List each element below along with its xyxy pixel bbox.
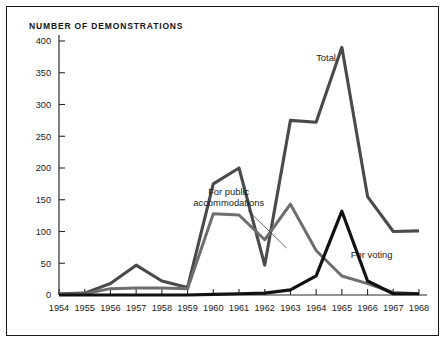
y-tick-label: 250 xyxy=(36,132,51,142)
x-tick-label: 1965 xyxy=(332,303,352,313)
y-tick-label: 300 xyxy=(36,100,51,110)
x-tick-label: 1967 xyxy=(383,303,403,313)
chart-figure: NUMBER OF DEMONSTRATIONS 050100150200250… xyxy=(6,6,439,336)
x-tick-label: 1962 xyxy=(254,303,274,313)
x-tick-label: 1957 xyxy=(126,303,146,313)
x-tick-label: 1966 xyxy=(357,303,377,313)
x-tick-label: 1968 xyxy=(409,303,429,313)
y-tick-label: 200 xyxy=(36,163,51,173)
x-tick-label: 1956 xyxy=(100,303,120,313)
line-chart-plot: 0501001502002503003504001954195519561957… xyxy=(7,7,440,337)
y-tick-label: 350 xyxy=(36,68,51,78)
y-tick-label: 0 xyxy=(46,290,51,300)
series-annotation-label: For publicaccommodations xyxy=(193,186,264,209)
x-tick-label: 1961 xyxy=(229,303,249,313)
y-tick-label: 100 xyxy=(36,227,51,237)
series-annotation-label: For voting xyxy=(351,249,393,260)
x-tick-label: 1964 xyxy=(306,303,326,313)
x-tick-label: 1955 xyxy=(74,303,94,313)
series-annotation-label: Total xyxy=(316,52,336,63)
x-tick-label: 1958 xyxy=(152,303,172,313)
x-tick-label: 1963 xyxy=(280,303,300,313)
y-tick-label: 150 xyxy=(36,195,51,205)
x-tick-label: 1960 xyxy=(203,303,223,313)
x-tick-label: 1959 xyxy=(177,303,197,313)
y-tick-label: 50 xyxy=(41,259,51,269)
x-tick-label: 1954 xyxy=(49,303,69,313)
y-tick-label: 400 xyxy=(36,36,51,46)
